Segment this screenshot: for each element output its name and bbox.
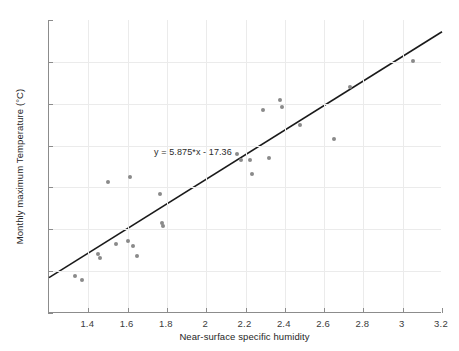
data-point xyxy=(261,108,265,112)
data-point xyxy=(98,256,102,260)
data-point xyxy=(348,85,352,89)
data-point xyxy=(267,156,271,160)
y-axis-tick xyxy=(48,313,53,314)
x-axis-tick xyxy=(88,308,89,313)
y-axis-tick xyxy=(48,229,53,230)
gridline-horizontal xyxy=(49,62,441,63)
x-axis-tick xyxy=(403,308,404,313)
gridline-vertical xyxy=(324,20,325,312)
plot-area xyxy=(48,20,441,313)
data-point xyxy=(161,224,165,228)
data-point xyxy=(278,98,282,102)
data-point xyxy=(114,242,118,246)
x-axis-tick xyxy=(285,308,286,313)
x-axis-tick-label: 2.4 xyxy=(277,318,291,329)
gridline-vertical xyxy=(167,20,168,312)
x-axis-tick xyxy=(246,308,247,313)
x-axis-tick-label: 1.4 xyxy=(80,318,94,329)
gridline-vertical xyxy=(206,20,207,312)
x-axis-tick-label: 1.8 xyxy=(159,318,173,329)
data-point xyxy=(411,59,415,63)
scatter-plot-figure: y = 5.875*x - 17.36 Near-surface specifi… xyxy=(0,0,459,351)
gridline-vertical xyxy=(128,20,129,312)
y-axis-tick xyxy=(48,62,53,63)
gridline-horizontal xyxy=(49,104,441,105)
regression-equation-label: y = 5.875*x - 17.36 xyxy=(154,147,232,157)
gridline-vertical xyxy=(285,20,286,312)
x-axis-tick-label: 3 xyxy=(399,318,404,329)
x-axis-tick-label: 1.6 xyxy=(120,318,134,329)
x-axis-tick xyxy=(442,308,443,313)
y-axis-tick xyxy=(48,271,53,272)
y-axis-tick xyxy=(48,104,53,105)
data-point xyxy=(106,180,110,184)
y-axis-tick xyxy=(48,20,53,21)
gridline-horizontal xyxy=(49,271,441,272)
x-axis-tick xyxy=(324,308,325,313)
data-point xyxy=(332,137,336,141)
x-axis-tick xyxy=(167,308,168,313)
gridline-horizontal xyxy=(49,187,441,188)
data-point xyxy=(298,123,302,127)
x-axis-label: Near-surface specific humidity xyxy=(48,331,441,342)
data-point xyxy=(73,274,77,278)
x-axis-tick-label: 2.8 xyxy=(355,318,369,329)
gridline-horizontal xyxy=(49,146,441,147)
x-axis-tick xyxy=(128,308,129,313)
y-axis-label: Monthly maximum Temperature (°C) xyxy=(14,20,28,313)
data-point xyxy=(128,175,132,179)
y-axis-tick xyxy=(48,187,53,188)
gridline-vertical xyxy=(88,20,89,312)
data-point xyxy=(239,158,243,162)
x-axis-tick-label: 2.2 xyxy=(238,318,252,329)
data-point xyxy=(280,105,284,109)
x-axis-tick xyxy=(363,308,364,313)
x-axis-tick-label: 2.6 xyxy=(316,318,330,329)
x-axis-tick xyxy=(206,308,207,313)
y-axis-tick xyxy=(48,146,53,147)
gridline-vertical xyxy=(246,20,247,312)
gridline-vertical xyxy=(363,20,364,312)
x-axis-tick-label: 2 xyxy=(202,318,207,329)
x-axis-tick-label: 3.2 xyxy=(434,318,448,329)
gridline-horizontal xyxy=(49,229,441,230)
gridline-vertical xyxy=(403,20,404,312)
